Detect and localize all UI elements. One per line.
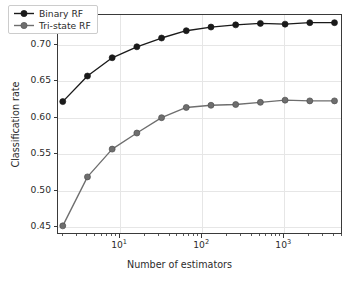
data-point: [60, 99, 66, 105]
x-tick-label: 101: [111, 240, 127, 249]
y-tick-mark: [54, 117, 58, 118]
legend-item-binary-rf: Binary RF: [13, 9, 91, 18]
data-point: [60, 223, 66, 229]
x-tick-minor: [106, 234, 107, 236]
x-tick-label: 103: [275, 240, 291, 249]
data-point: [233, 22, 239, 28]
x-tick-mark: [283, 234, 284, 238]
data-point: [233, 102, 239, 108]
x-tick-minor: [94, 234, 95, 236]
y-tick-mark: [54, 190, 58, 191]
data-point: [109, 55, 115, 61]
x-tick-minor: [86, 234, 87, 236]
legend-item-tri-state-rf: Tri-state RF: [13, 21, 91, 30]
data-point: [307, 98, 313, 104]
x-tick-minor: [193, 234, 194, 236]
x-tick-minor: [275, 234, 276, 236]
x-tick-minor: [188, 234, 189, 236]
x-tick-minor: [183, 234, 184, 236]
x-tick-minor: [111, 234, 112, 236]
y-tick-label: 0.45: [31, 221, 51, 230]
x-tick-minor: [115, 234, 116, 236]
data-point: [159, 115, 165, 121]
x-tick-minor: [341, 234, 342, 236]
y-tick-label: 0.55: [31, 148, 51, 157]
x-tick-minor: [158, 234, 159, 236]
data-point: [84, 174, 90, 180]
chart-legend: Binary RF Tri-state RF: [8, 5, 98, 34]
data-point: [331, 98, 337, 104]
x-tick-minor: [271, 234, 272, 236]
x-tick-label: 102: [193, 240, 209, 249]
data-point: [159, 35, 165, 41]
data-point: [183, 28, 189, 34]
y-tick-mark: [54, 80, 58, 81]
data-point: [307, 20, 313, 26]
data-point: [331, 20, 337, 26]
x-tick-minor: [176, 234, 177, 236]
y-tick-label: 0.70: [31, 39, 51, 48]
legend-label: Binary RF: [39, 9, 83, 18]
legend-marker-icon: [13, 21, 35, 30]
data-point: [208, 102, 214, 108]
x-tick-minor: [308, 234, 309, 236]
y-tick-mark: [54, 226, 58, 227]
x-tick-minor: [62, 234, 63, 236]
legend-marker-icon: [13, 9, 35, 18]
y-axis-label-container: Classification rate: [8, 0, 22, 248]
data-point: [282, 21, 288, 27]
x-tick-minor: [240, 234, 241, 236]
x-tick-minor: [144, 234, 145, 236]
x-tick-minor: [279, 234, 280, 236]
data-point: [109, 146, 115, 152]
plot-area: [57, 14, 342, 234]
x-tick-mark: [119, 234, 120, 238]
x-tick-minor: [259, 234, 260, 236]
y-tick-label: 0.60: [31, 112, 51, 121]
y-tick-mark: [54, 44, 58, 45]
y-axis-label: Classification rate: [10, 81, 21, 167]
data-point: [282, 97, 288, 103]
y-tick-label: 0.50: [31, 185, 51, 194]
series-line-tri-state-rf: [63, 100, 335, 226]
x-tick-minor: [169, 234, 170, 236]
x-tick-mark: [201, 234, 202, 238]
data-point: [134, 44, 140, 50]
data-point: [84, 73, 90, 79]
x-tick-minor: [76, 234, 77, 236]
x-tick-minor: [322, 234, 323, 236]
x-tick-minor: [101, 234, 102, 236]
x-tick-minor: [226, 234, 227, 236]
x-axis-label: Number of estimators: [0, 259, 359, 270]
series-layer: [58, 15, 342, 234]
data-point: [183, 104, 189, 110]
series-line-binary-rf: [63, 23, 335, 102]
x-tick-minor: [197, 234, 198, 236]
data-point: [208, 24, 214, 30]
y-tick-label: 0.65: [31, 75, 51, 84]
legend-label: Tri-state RF: [39, 21, 91, 30]
y-tick-mark: [54, 153, 58, 154]
chart-figure: Classification rate 0.450.500.550.600.65…: [0, 0, 359, 281]
data-point: [257, 20, 263, 26]
x-tick-minor: [265, 234, 266, 236]
x-tick-minor: [251, 234, 252, 236]
data-point: [257, 99, 263, 105]
data-point: [134, 130, 140, 136]
x-tick-minor: [333, 234, 334, 236]
